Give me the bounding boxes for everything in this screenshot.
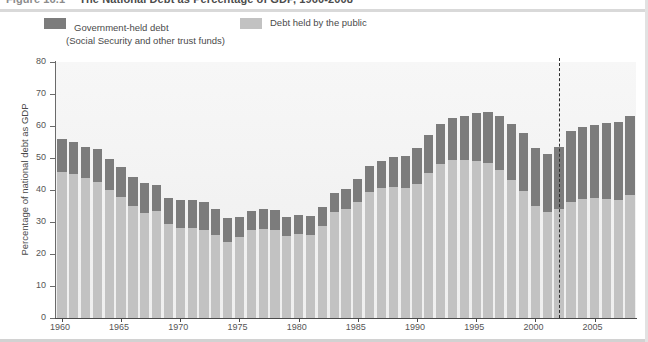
bar-segment-public xyxy=(152,211,161,318)
bar-1969 xyxy=(164,198,173,318)
bar-segment-government xyxy=(116,167,125,196)
bar-segment-public xyxy=(424,173,433,318)
bar-segment-government xyxy=(353,179,362,201)
bar-1970 xyxy=(176,200,185,318)
bar-segment-government xyxy=(282,217,291,236)
bar-1963 xyxy=(93,149,102,318)
bar-2008 xyxy=(625,116,634,318)
bar-segment-public xyxy=(483,163,492,318)
bar-segment-government xyxy=(507,124,516,180)
bar-segment-public xyxy=(590,198,599,318)
bar-segment-government xyxy=(590,125,599,198)
x-tick-label-1975: 1975 xyxy=(227,322,247,332)
bar-segment-public xyxy=(495,170,504,318)
bar-segment-public xyxy=(259,229,268,318)
bar-1977 xyxy=(259,209,268,318)
bar-2007 xyxy=(614,122,623,318)
bar-segment-public xyxy=(294,234,303,318)
bar-1980 xyxy=(294,215,303,318)
bar-segment-public xyxy=(282,236,291,318)
bar-segment-public xyxy=(460,160,469,318)
bar-segment-public xyxy=(448,160,457,318)
x-tick-label-2005: 2005 xyxy=(583,322,603,332)
y-tick-70 xyxy=(50,94,55,95)
bar-segment-government xyxy=(199,202,208,230)
bar-2001 xyxy=(543,154,552,318)
bar-1968 xyxy=(152,185,161,318)
bar-segment-government xyxy=(531,148,540,206)
bar-1964 xyxy=(105,159,114,318)
bar-segment-public xyxy=(270,230,279,318)
legend-sublabel-government: (Social Security and other trust funds) xyxy=(66,35,225,48)
x-tick-label-1970: 1970 xyxy=(168,322,188,332)
bar-segment-government xyxy=(69,142,78,174)
y-tick-40 xyxy=(50,190,55,191)
chart-legend: Government-held debt (Social Security an… xyxy=(44,17,604,43)
bar-segment-public xyxy=(164,224,173,318)
bar-segment-government xyxy=(164,198,173,225)
bar-2004 xyxy=(578,127,587,318)
bar-1971 xyxy=(188,200,197,318)
bar-segment-public xyxy=(472,161,481,318)
figure-container: Figure 16.1The National Debt as Percenta… xyxy=(0,0,648,342)
bar-2000 xyxy=(531,148,540,318)
bar-1984 xyxy=(341,189,350,318)
bar-segment-public xyxy=(389,187,398,318)
y-tick-0 xyxy=(50,318,55,319)
y-axis-line xyxy=(55,61,56,319)
x-tick-label-1995: 1995 xyxy=(464,322,484,332)
bar-segment-government xyxy=(625,116,634,195)
legend-swatch-public xyxy=(240,18,262,29)
bar-1998 xyxy=(507,124,516,318)
bar-segment-government xyxy=(472,113,481,161)
bar-1996 xyxy=(483,112,492,318)
bar-segment-public xyxy=(507,180,516,318)
bar-segment-public xyxy=(57,172,66,318)
bar-segment-public xyxy=(602,199,611,318)
bar-segment-government xyxy=(448,118,457,160)
bar-segment-public xyxy=(578,199,587,318)
bar-1978 xyxy=(270,210,279,318)
bar-1994 xyxy=(460,116,469,318)
bar-1982 xyxy=(318,207,327,318)
bar-1967 xyxy=(140,183,149,318)
y-tick-label-50: 50 xyxy=(26,152,46,162)
bar-1987 xyxy=(377,161,386,318)
legend-item-public: Debt held by the public xyxy=(240,17,367,30)
bar-segment-government xyxy=(401,156,410,189)
bar-segment-government xyxy=(318,207,327,226)
bar-segment-government xyxy=(128,177,137,207)
y-tick-label-10: 10 xyxy=(26,280,46,290)
bar-segment-government xyxy=(93,149,102,182)
y-tick-label-40: 40 xyxy=(26,184,46,194)
x-axis-line xyxy=(55,318,637,319)
bar-2006 xyxy=(602,123,611,318)
bar-segment-public xyxy=(566,202,575,318)
title-rule xyxy=(0,9,648,12)
bar-1972 xyxy=(199,202,208,318)
legend-item-government: Government-held debt (Social Security an… xyxy=(44,17,225,48)
y-tick-80 xyxy=(50,62,55,63)
bar-segment-government xyxy=(330,193,339,212)
bar-1997 xyxy=(495,116,504,318)
page-title: Figure 16.1The National Debt as Percenta… xyxy=(6,0,353,5)
bar-segment-public xyxy=(223,242,232,318)
bar-1975 xyxy=(235,217,244,318)
bar-segment-government xyxy=(259,209,268,229)
bar-1991 xyxy=(424,135,433,318)
bar-1965 xyxy=(116,167,125,318)
bar-segment-government xyxy=(81,147,90,179)
bar-1973 xyxy=(211,209,220,318)
bar-segment-public xyxy=(69,174,78,318)
bar-1985 xyxy=(353,179,362,318)
bar-1990 xyxy=(412,148,421,318)
bar-segment-government xyxy=(247,211,256,230)
bar-1981 xyxy=(306,216,315,318)
bar-segment-public xyxy=(330,212,339,318)
bar-segment-government xyxy=(460,116,469,160)
bar-segment-public xyxy=(116,197,125,318)
plot-area xyxy=(56,62,636,318)
bar-segment-government xyxy=(578,127,587,199)
bar-2003 xyxy=(566,131,575,318)
bar-segment-government xyxy=(152,185,161,212)
